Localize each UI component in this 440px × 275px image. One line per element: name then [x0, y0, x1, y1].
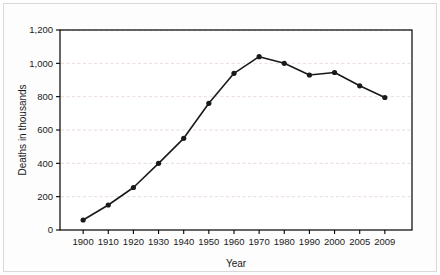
x-tick-label-1920: 1920 [123, 236, 144, 247]
x-tick-label-1960: 1960 [223, 236, 244, 247]
data-point-1910 [106, 202, 111, 207]
y-tick-label-400: 400 [37, 158, 53, 169]
x-tick-label-1940: 1940 [173, 236, 194, 247]
line-chart: 02004006008001,0001,200 1900191019201930… [0, 0, 440, 275]
y-tick-label-200: 200 [37, 191, 53, 202]
data-point-2005 [357, 83, 362, 88]
x-tick-label-1970: 1970 [249, 236, 270, 247]
y-axis-tick-labels: 02004006008001,0001,200 [29, 24, 53, 235]
data-point-1920 [131, 185, 136, 190]
y-tick-label-1200: 1,200 [29, 24, 53, 35]
x-tick-label-2000: 2000 [324, 236, 345, 247]
x-tick-label-2005: 2005 [349, 236, 370, 247]
y-tick-label-0: 0 [48, 224, 53, 235]
x-axis-tick-labels: 1900191019201930194019501960197019801990… [73, 236, 396, 247]
y-tick-label-800: 800 [37, 91, 53, 102]
x-tick-label-1950: 1950 [198, 236, 219, 247]
chart-figure: 02004006008001,0001,200 1900191019201930… [0, 0, 440, 275]
x-tick-label-1910: 1910 [98, 236, 119, 247]
data-point-1940 [181, 136, 186, 141]
x-tick-label-1990: 1990 [299, 236, 320, 247]
data-point-1970 [257, 54, 262, 59]
x-axis-ticks [83, 230, 385, 234]
x-tick-label-1980: 1980 [274, 236, 295, 247]
data-point-1980 [282, 61, 287, 66]
x-axis-title: Year [226, 258, 247, 269]
x-tick-label-1900: 1900 [73, 236, 94, 247]
y-tick-label-600: 600 [37, 124, 53, 135]
data-point-2000 [332, 70, 337, 75]
data-point-1950 [206, 101, 211, 106]
x-tick-label-2009: 2009 [374, 236, 395, 247]
data-point-2009 [382, 95, 387, 100]
y-axis-title: Deaths in thousands [17, 84, 28, 175]
y-tick-label-1000: 1,000 [29, 58, 53, 69]
data-point-1990 [307, 72, 312, 77]
data-point-1930 [156, 161, 161, 166]
x-tick-label-1930: 1930 [148, 236, 169, 247]
data-point-1900 [81, 217, 86, 222]
data-point-1960 [231, 71, 236, 76]
